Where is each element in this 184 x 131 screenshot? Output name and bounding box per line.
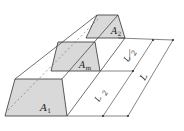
mid-section-am xyxy=(51,42,100,71)
end-face-a1 xyxy=(5,79,67,116)
dim-label-length: L xyxy=(137,72,149,83)
svg-text:L: L xyxy=(121,54,132,64)
dim-label-half-top: L 2 xyxy=(121,47,139,66)
svg-text:2: 2 xyxy=(129,49,139,58)
svg-text:L: L xyxy=(92,94,103,104)
svg-text:2: 2 xyxy=(100,89,110,98)
prismoid-diagram: A1 Am A2 L 2 L 2 L xyxy=(0,0,184,131)
dim-label-half-bottom: L 2 xyxy=(92,87,110,106)
